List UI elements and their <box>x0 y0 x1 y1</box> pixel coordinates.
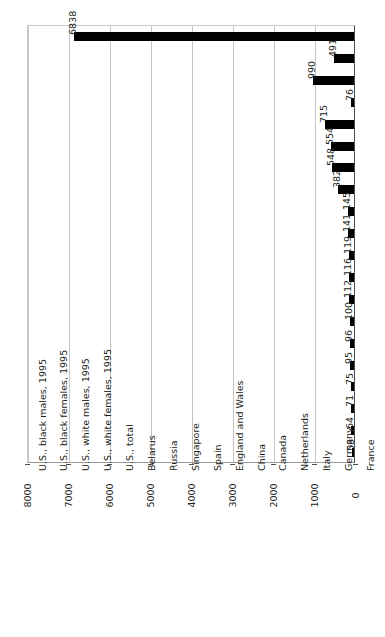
axis-tick-label: 3000 <box>227 476 238 516</box>
bar-value-label: 112 <box>342 280 353 298</box>
gridline <box>192 26 193 462</box>
axis-tick-mark <box>353 464 358 465</box>
axis-tick-label: 8000 <box>22 476 33 516</box>
axis-tick-label: 5000 <box>145 476 156 516</box>
bar-value-label: 141 <box>341 214 352 232</box>
bar-value-label: 96 <box>343 330 354 342</box>
bar-value-label: 119 <box>342 236 353 254</box>
bar-value-label: 71 <box>344 395 355 407</box>
bar <box>74 32 354 41</box>
bar-value-label: 100 <box>342 302 353 320</box>
chart-root: Incarceration Rates Per 100,000 People o… <box>0 0 385 637</box>
gridline <box>315 26 316 462</box>
gridline <box>274 26 275 462</box>
bar-value-label: 491 <box>326 39 337 57</box>
bar-value-label: 554 <box>324 126 335 144</box>
bar-value-label: 6838 <box>66 11 77 35</box>
axis-tick-mark <box>25 464 30 465</box>
axis-tick-mark <box>230 464 235 465</box>
bar-value-label: 75 <box>343 373 354 385</box>
gridline <box>28 26 29 462</box>
axis-tick-mark <box>271 464 276 465</box>
axis-tick-mark <box>148 464 153 465</box>
axis-tick-label: 6000 <box>104 476 115 516</box>
gridline <box>69 26 70 462</box>
bar-value-label: 145 <box>341 192 352 210</box>
bar-value-label: 76 <box>343 89 354 101</box>
axis-tick-mark <box>66 464 71 465</box>
bar-value-label: 990 <box>306 61 317 79</box>
axis-tick-mark <box>107 464 112 465</box>
axis-tick-mark <box>189 464 194 465</box>
bar <box>313 76 354 85</box>
bar-value-label: 116 <box>342 258 353 276</box>
plot-area <box>27 25 355 463</box>
gridline <box>151 26 152 462</box>
bar-value-label: 548 <box>324 148 335 166</box>
bar-value-label: 382 <box>331 170 342 188</box>
bar-value-label: 95 <box>343 351 354 363</box>
axis-tick-label: 4000 <box>186 476 197 516</box>
axis-tick-label: 1000 <box>309 476 320 516</box>
axis-tick-label: 2000 <box>268 476 279 516</box>
axis-tick-mark <box>312 464 317 465</box>
bar-value-label: 715 <box>317 104 328 122</box>
axis-tick-label: 7000 <box>63 476 74 516</box>
axis-tick-label: 0 <box>350 476 361 516</box>
